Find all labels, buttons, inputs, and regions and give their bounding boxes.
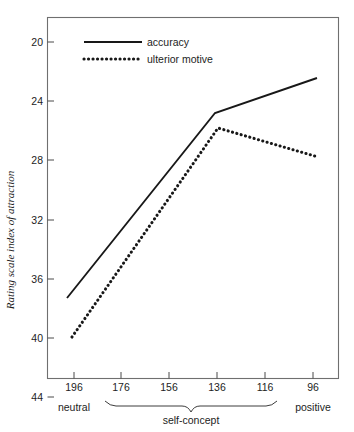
x-tick-label: 156 [160,381,178,393]
x-tick-label: 176 [112,381,130,393]
x-axis-tick-labels: 196 176 156 136 116 96 [65,381,319,393]
y-axis-title: Rating scale index of attraction [4,170,16,310]
x-anchor-left-label: neutral [58,401,90,413]
y-tick-label: 40 [31,332,43,344]
chart-svg: 20 24 28 32 36 40 44 Rating scale index … [0,0,354,432]
legend-label-ulterior-motive: ulterior motive [147,53,213,65]
x-tick-label: 136 [208,381,226,393]
y-tick-label: 32 [31,214,43,226]
y-tick-label: 36 [31,273,43,285]
y-axis-ticks [48,42,55,397]
y-axis-tick-labels: 20 24 28 32 36 40 44 [31,36,43,403]
series-line-ulterior-motive [72,128,318,337]
y-tick-label: 28 [31,154,43,166]
series-line-accuracy [67,78,317,298]
x-axis-ticks [74,372,313,379]
legend-label-accuracy: accuracy [147,36,190,48]
y-tick-label: 24 [31,95,43,107]
x-tick-label: 96 [307,381,319,393]
x-axis-group-title: self-concept [163,414,220,426]
self-concept-brace [105,401,277,412]
x-tick-label: 116 [257,381,274,393]
x-tick-label: 196 [65,381,83,393]
x-anchor-right-label: positive [295,401,331,413]
plot-frame [48,18,339,379]
chart-legend: accuracy ulterior motive [84,36,213,65]
y-tick-label: 44 [31,391,43,403]
chart-figure: 20 24 28 32 36 40 44 Rating scale index … [0,0,354,432]
y-tick-label: 20 [31,36,43,48]
